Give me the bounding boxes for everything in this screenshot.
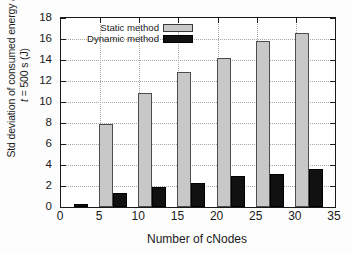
x-tick-label: 5	[96, 209, 103, 223]
bar-static	[99, 124, 113, 207]
legend-item-dynamic: Dynamic method	[87, 33, 193, 44]
y-tick-mark	[61, 123, 66, 124]
y-tick-label: 4	[0, 158, 57, 170]
y-tick-mark	[61, 144, 66, 145]
bar-static	[138, 93, 152, 207]
bar-dynamic	[309, 169, 323, 207]
y-tick-mark	[61, 81, 66, 82]
x-tick-label: 35	[327, 209, 340, 223]
y-tick-label: 6	[0, 137, 57, 149]
y-tick-label: 16	[0, 32, 57, 44]
bar-dynamic	[113, 193, 127, 207]
bar-static	[256, 41, 270, 207]
y-tick-mark	[330, 39, 335, 40]
y-tick-mark	[330, 207, 335, 208]
bar-dynamic	[270, 174, 284, 207]
legend-item-static: Static method	[87, 22, 193, 33]
y-tick-label: 8	[0, 116, 57, 128]
chart-figure: Std deviation of consumed energy at t = …	[0, 0, 351, 253]
y-tick-label: 12	[0, 74, 57, 86]
bar-dynamic	[74, 204, 88, 207]
y-tick-label: 10	[0, 95, 57, 107]
x-tick-label: 30	[288, 209, 301, 223]
plot-area: Static method Dynamic method	[60, 17, 336, 208]
x-tick-label: 20	[210, 209, 223, 223]
y-tick-mark	[330, 186, 335, 187]
x-tick-label: 10	[132, 209, 145, 223]
bar-dynamic	[152, 187, 166, 207]
bar-dynamic	[231, 176, 245, 208]
bar-dynamic	[191, 183, 205, 207]
bar-static	[177, 72, 191, 207]
x-axis-tick-labels: 05101520253035	[60, 209, 334, 225]
y-tick-mark	[330, 123, 335, 124]
x-axis-title: Number of cNodes	[60, 232, 334, 246]
x-tick-mark	[296, 18, 297, 23]
y-tick-label: 18	[0, 11, 57, 23]
y-tick-mark	[330, 165, 335, 166]
x-tick-label: 0	[57, 209, 64, 223]
y-tick-mark	[61, 186, 66, 187]
legend-swatch-dynamic-icon	[163, 35, 193, 43]
legend-label-static: Static method	[100, 22, 159, 33]
y-tick-label: 2	[0, 179, 57, 191]
y-tick-label: 14	[0, 53, 57, 65]
y-tick-mark	[61, 39, 66, 40]
bar-static	[217, 58, 231, 207]
y-tick-mark	[61, 60, 66, 61]
x-tick-mark	[218, 18, 219, 23]
chart-legend: Static method Dynamic method	[87, 22, 193, 44]
legend-swatch-static-icon	[163, 24, 193, 32]
bar-static	[295, 33, 309, 207]
y-tick-mark	[330, 60, 335, 61]
y-tick-mark	[330, 81, 335, 82]
y-tick-label: 0	[0, 200, 57, 212]
y-tick-mark	[330, 144, 335, 145]
x-tick-label: 15	[171, 209, 184, 223]
y-tick-mark	[330, 102, 335, 103]
y-tick-mark	[330, 18, 335, 19]
y-tick-mark	[61, 102, 66, 103]
y-tick-mark	[61, 207, 66, 208]
legend-label-dynamic: Dynamic method	[87, 33, 159, 44]
y-tick-mark	[61, 165, 66, 166]
y-tick-mark	[61, 18, 66, 19]
x-tick-label: 25	[249, 209, 262, 223]
x-tick-mark	[257, 18, 258, 23]
